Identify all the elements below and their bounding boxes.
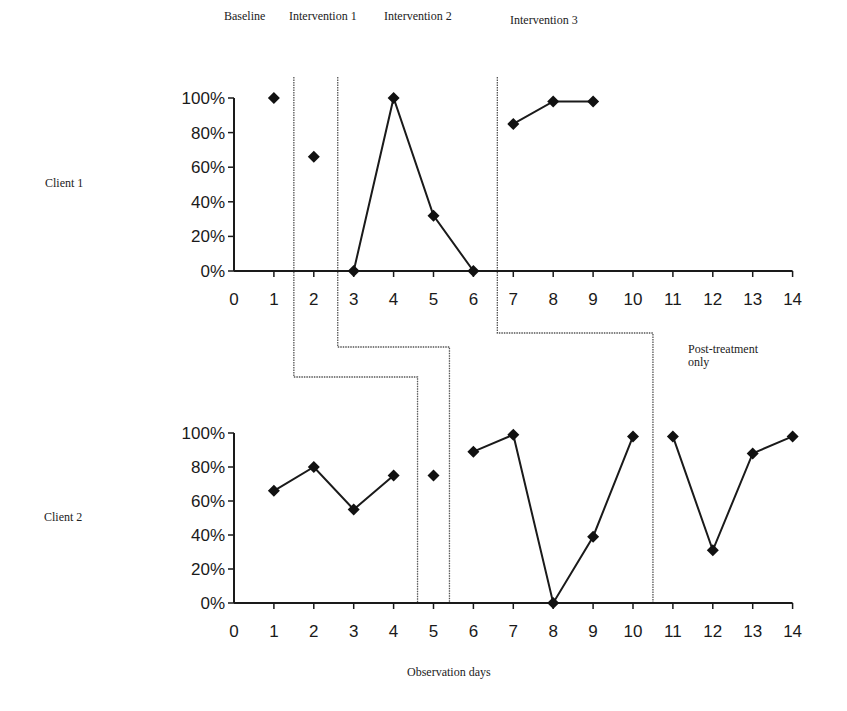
x-tick-label: 1: [269, 290, 278, 309]
x-tick-label: 2: [309, 290, 318, 309]
x-tick-label: 14: [783, 290, 802, 309]
x-tick-label: 7: [509, 290, 518, 309]
y-tick-label: 60%: [191, 158, 225, 177]
diamond-marker: [707, 544, 719, 556]
client-1-chart-panel: 0%20%40%60%80%100%01234567891011121314: [182, 89, 803, 309]
y-tick-label: 80%: [191, 458, 225, 477]
y-tick-label: 0%: [200, 594, 225, 613]
x-tick-label: 10: [624, 622, 643, 641]
x-tick-label: 11: [664, 622, 682, 641]
x-tick-label: 5: [429, 622, 438, 641]
x-tick-label: 4: [389, 290, 398, 309]
y-tick-label: 100%: [182, 424, 225, 443]
x-tick-label: 0: [229, 290, 238, 309]
x-tick-label: 14: [783, 622, 802, 641]
series-line: [274, 467, 394, 510]
phase-change-line: [338, 77, 450, 603]
x-tick-label: 8: [548, 290, 557, 309]
x-tick-label: 8: [548, 622, 557, 641]
diamond-marker: [268, 485, 280, 497]
diamond-marker: [547, 597, 559, 609]
series-line: [673, 436, 793, 550]
y-tick-label: 60%: [191, 492, 225, 511]
x-tick-label: 5: [429, 290, 438, 309]
x-tick-label: 9: [588, 290, 597, 309]
x-tick-label: 2: [309, 622, 318, 641]
x-tick-label: 6: [469, 622, 478, 641]
x-tick-label: 1: [269, 622, 278, 641]
x-tick-label: 12: [703, 622, 722, 641]
x-tick-label: 9: [588, 622, 597, 641]
diamond-marker: [747, 447, 759, 459]
diamond-marker: [667, 430, 679, 442]
diamond-marker: [348, 265, 360, 277]
x-tick-label: 7: [509, 622, 518, 641]
diamond-marker: [507, 429, 519, 441]
diamond-marker: [587, 95, 599, 107]
diamond-marker: [428, 470, 440, 482]
y-tick-label: 20%: [191, 560, 225, 579]
series-line: [354, 98, 474, 271]
x-tick-label: 3: [349, 290, 358, 309]
phase-change-line: [497, 77, 653, 603]
diamond-marker: [388, 92, 400, 104]
diamond-marker: [268, 92, 280, 104]
diamond-marker: [467, 446, 479, 458]
multiple-baseline-chart: 0%20%40%60%80%100%01234567891011121314 0…: [0, 0, 847, 711]
y-tick-label: 80%: [191, 124, 225, 143]
y-tick-label: 20%: [191, 227, 225, 246]
y-tick-label: 0%: [200, 262, 225, 281]
x-tick-label: 6: [469, 290, 478, 309]
x-tick-label: 13: [743, 290, 762, 309]
diamond-marker: [627, 430, 639, 442]
x-tick-label: 13: [743, 622, 762, 641]
x-tick-label: 12: [703, 290, 722, 309]
x-tick-label: 11: [664, 290, 682, 309]
series-line: [473, 435, 633, 603]
y-tick-label: 40%: [191, 193, 225, 212]
x-tick-label: 0: [229, 622, 238, 641]
y-tick-label: 100%: [182, 89, 225, 108]
diamond-marker: [547, 95, 559, 107]
client-2-chart-panel: 0%20%40%60%80%100%01234567891011121314: [182, 424, 803, 641]
diamond-marker: [308, 151, 320, 163]
diamond-marker: [507, 118, 519, 130]
diamond-marker: [787, 430, 799, 442]
x-tick-label: 10: [624, 290, 643, 309]
y-tick-label: 40%: [191, 526, 225, 545]
x-tick-label: 4: [389, 622, 398, 641]
diamond-marker: [587, 531, 599, 543]
x-tick-label: 3: [349, 622, 358, 641]
